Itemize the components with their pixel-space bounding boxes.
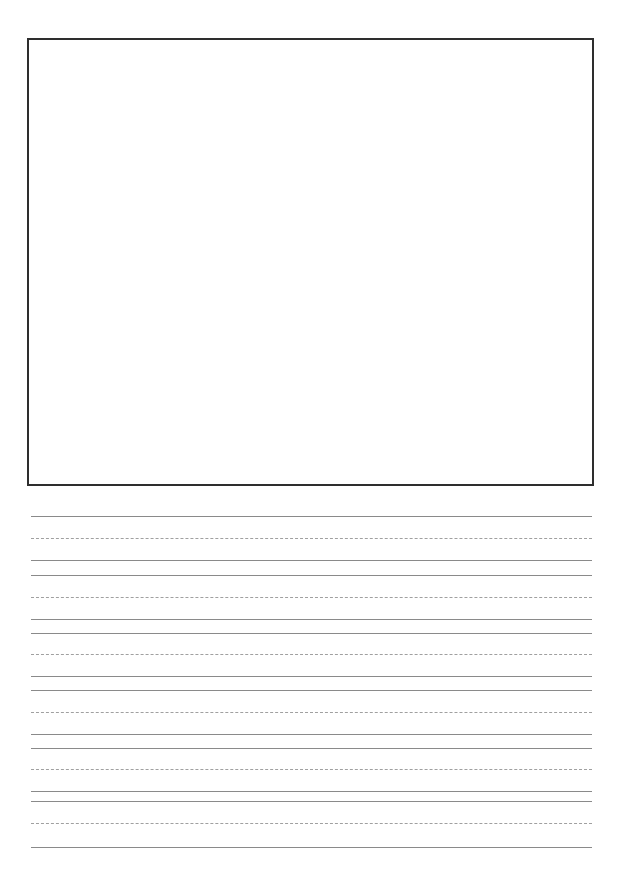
writing-line-base: [31, 847, 592, 848]
writing-line-mid: [31, 712, 592, 713]
writing-line-mid: [31, 654, 592, 655]
writing-line-base: [31, 676, 592, 677]
writing-line-top: [31, 575, 592, 576]
drawing-box: [27, 38, 594, 486]
writing-line-base: [31, 560, 592, 561]
writing-line-mid: [31, 769, 592, 770]
writing-line-mid: [31, 597, 592, 598]
writing-line-base: [31, 791, 592, 792]
writing-line-top: [31, 801, 592, 802]
writing-line-base: [31, 619, 592, 620]
writing-line-top: [31, 748, 592, 749]
writing-line-base: [31, 734, 592, 735]
writing-line-top: [31, 690, 592, 691]
writing-line-top: [31, 633, 592, 634]
writing-line-mid: [31, 823, 592, 824]
writing-line-mid: [31, 538, 592, 539]
writing-line-top: [31, 516, 592, 517]
